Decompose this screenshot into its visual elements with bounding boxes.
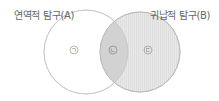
svg-text:ㄴ: ㄴ xyxy=(110,46,116,53)
svg-text:ㄷ: ㄷ xyxy=(145,46,151,53)
set-b-label: 귀납적 탐구(B) xyxy=(150,7,210,22)
marker-a-only: ㄱ xyxy=(70,46,78,54)
marker-intersection: ㄴ xyxy=(109,46,117,54)
svg-text:ㄱ: ㄱ xyxy=(71,46,77,53)
marker-b-only: ㄷ xyxy=(144,46,152,54)
set-a-label: 연역적 탐구(A) xyxy=(14,7,74,22)
